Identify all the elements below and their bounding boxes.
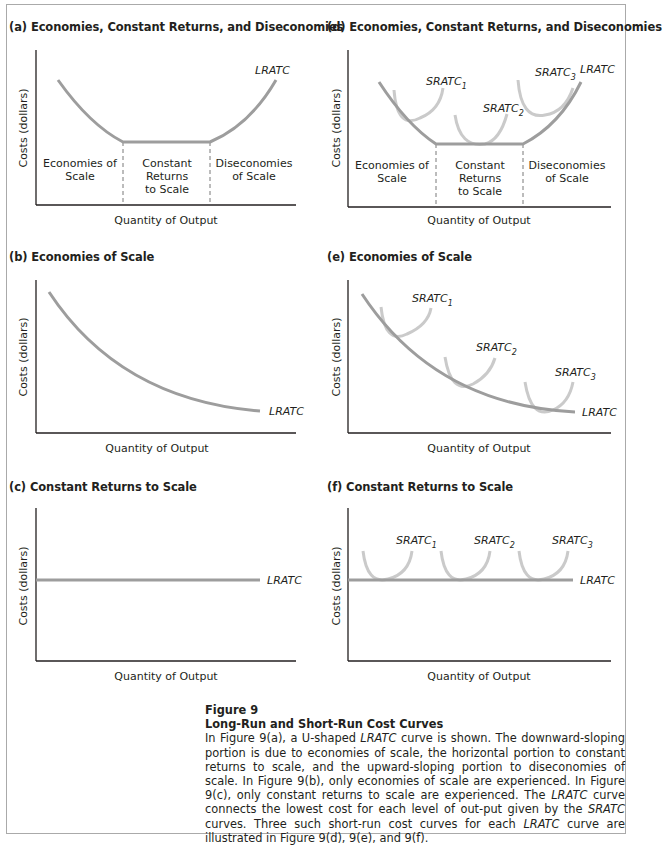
panel-c: (c) Constant Returns to Scale LRATC Cost… (0, 460, 310, 690)
lratc-label: LRATC (267, 574, 302, 587)
sratc2-label: SRATC2 (476, 341, 517, 357)
region-label: Returns (146, 170, 189, 183)
sratc2-curve (441, 551, 490, 580)
lratc-label: LRATC (580, 63, 615, 76)
region-label: Returns (459, 172, 502, 185)
region-label: of Scale (545, 172, 589, 185)
sratc3-curve (519, 551, 568, 580)
figure-caption: Figure 9 Long-Run and Short-Run Cost Cur… (205, 703, 625, 845)
region-label: Constant (142, 157, 192, 170)
caption-body: In Figure 9(a), a U-shaped LRATC curve i… (205, 731, 625, 845)
chart-c: LRATC Costs (dollars) Quantity of Output (0, 460, 310, 690)
panel-f: (f) Constant Returns to Scale LRATC SRAT… (315, 460, 625, 690)
lratc-curve (362, 294, 575, 412)
panel-b: (b) Economies of Scale LRATC Costs (doll… (0, 230, 310, 460)
sratc3-label: SRATC3 (535, 66, 576, 82)
x-axis-label: Quantity of Output (427, 442, 531, 455)
region-label: Constant (455, 159, 505, 172)
region-label: Scale (377, 172, 407, 185)
chart-a: LRATC Costs (dollars) Quantity of Output… (0, 0, 310, 230)
chart-d: LRATC SRATC1 SRATC2 SRATC3 Costs (dollar… (315, 0, 635, 230)
sratc2-label: SRATC2 (474, 534, 515, 550)
region-label: to Scale (145, 183, 189, 196)
y-axis-label: Costs (dollars) (17, 546, 30, 625)
panel-d: (d) Economies, Constant Returns, and Dis… (315, 0, 625, 230)
figure-title: Long-Run and Short-Run Cost Curves (205, 717, 625, 731)
panel-e: (e) Economies of Scale LRATC SRATC1 SRAT… (315, 230, 625, 460)
panel-a: (a) Economies, Constant Returns, and Dis… (0, 0, 310, 230)
sratc2-curve (455, 114, 507, 144)
region-label: Economies of (355, 159, 430, 172)
lratc-label: LRATC (580, 574, 615, 587)
lratc-label: LRATC (269, 405, 304, 418)
region-label: Economies of (43, 157, 118, 170)
chart-b: LRATC Costs (dollars) Quantity of Output (0, 230, 310, 460)
lratc-label: LRATC (255, 64, 290, 77)
sratc1-curve (394, 88, 443, 121)
x-axis-label: Quantity of Output (114, 670, 218, 683)
sratc2-curve (445, 357, 495, 386)
lratc-label: LRATC (582, 406, 617, 419)
chart-e: LRATC SRATC1 SRATC2 SRATC3 Costs (dollar… (315, 230, 635, 460)
lratc-curve (58, 80, 276, 142)
figure-number: Figure 9 (205, 703, 625, 717)
sratc2-label: SRATC2 (483, 102, 524, 118)
y-axis-label: Costs (dollars) (17, 317, 30, 396)
region-label: to Scale (458, 185, 502, 198)
sratc3-label: SRATC3 (552, 534, 593, 550)
x-axis-label: Quantity of Output (114, 214, 218, 227)
y-axis-label: Costs (dollars) (330, 546, 343, 625)
x-axis-label: Quantity of Output (105, 442, 209, 455)
region-label: of Scale (232, 170, 276, 183)
region-label: Diseconomies (216, 157, 293, 170)
sratc1-curve (363, 551, 412, 580)
y-axis-label: Costs (dollars) (330, 88, 343, 167)
lratc-curve (49, 292, 260, 411)
region-label: Scale (65, 170, 95, 183)
sratc1-curve (381, 307, 431, 336)
sratc3-label: SRATC3 (555, 366, 596, 382)
x-axis-label: Quantity of Output (427, 670, 531, 683)
chart-f: LRATC SRATC1 SRATC2 SRATC3 Costs (dollar… (315, 460, 635, 690)
sratc1-label: SRATC1 (396, 534, 437, 550)
y-axis-label: Costs (dollars) (17, 88, 30, 167)
y-axis-label: Costs (dollars) (330, 317, 343, 396)
sratc1-label: SRATC1 (426, 75, 467, 91)
region-label: Diseconomies (529, 159, 606, 172)
x-axis-label: Quantity of Output (427, 214, 531, 227)
sratc1-label: SRATC1 (412, 292, 453, 308)
